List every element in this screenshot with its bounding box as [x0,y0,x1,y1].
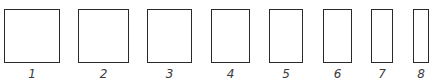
rectangle-label-3: 3 [160,67,180,81]
rectangle-3 [147,9,192,63]
rectangle-label-2: 2 [94,67,114,81]
rectangle-label-8: 8 [411,67,431,81]
rectangle-label-1: 1 [22,67,42,81]
rectangle-4 [211,9,250,63]
rectangle-label-6: 6 [328,67,348,81]
rectangle-5 [269,9,303,63]
rectangle-7 [371,9,393,63]
rectangle-label-7: 7 [372,67,392,81]
rectangle-6 [323,9,352,63]
rectangle-proportion-figure: 1 2 3 4 5 6 7 8 [0,0,432,84]
rectangle-1 [4,9,60,63]
rectangle-8 [413,9,429,63]
rectangle-label-4: 4 [221,67,241,81]
rectangle-2 [78,9,129,63]
rectangle-label-5: 5 [276,67,296,81]
